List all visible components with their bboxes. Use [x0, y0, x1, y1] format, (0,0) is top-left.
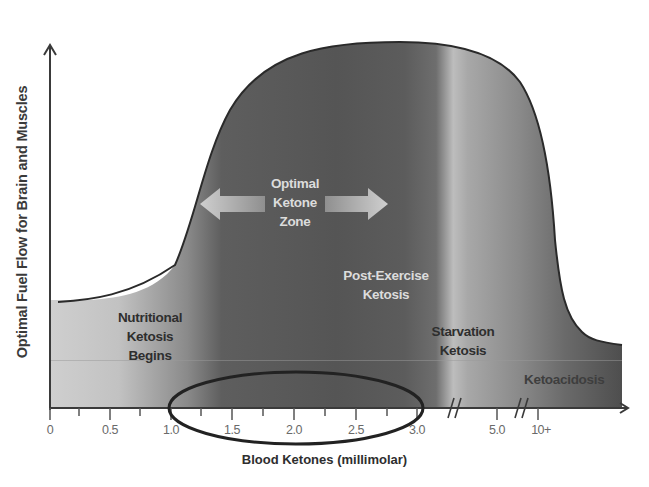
post-exercise-ketosis-label: Post-Exercise Ketosis: [326, 266, 446, 304]
x-tick-label: 5.0: [489, 423, 505, 437]
x-tick-label: 2.0: [286, 423, 302, 437]
starvation-ketosis-label: Starvation Ketosis: [418, 322, 508, 360]
nutritional-ketosis-label: Nutritional Ketosis Begins: [100, 308, 200, 365]
x-tick-label: 1.5: [224, 423, 240, 437]
x-tick-label: 0.5: [102, 423, 118, 437]
y-axis-label: Optimal Fuel Flow for Brain and Muscles: [12, 42, 32, 402]
x-axis-label: Blood Ketones (millimolar): [0, 452, 649, 467]
x-tick-label: 3.0: [409, 423, 425, 437]
x-tick-label: 0: [47, 423, 53, 437]
x-ticks: [50, 408, 538, 420]
x-tick-label: 10+: [531, 423, 551, 437]
chart-plot: [0, 0, 649, 487]
ketoacidosis-label: Ketoacidosis: [524, 370, 624, 389]
x-tick-label: 1.0: [163, 423, 179, 437]
x-tick-label: 2.5: [348, 423, 364, 437]
optimal-ketone-zone-label: Optimal Ketone Zone: [255, 174, 335, 231]
